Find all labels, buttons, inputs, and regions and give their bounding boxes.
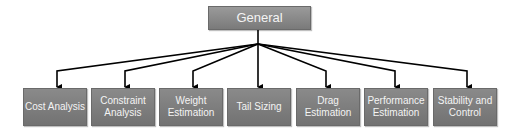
root-node-general: General [208,6,311,30]
node-weight-estimation: Weight Estimation [159,88,223,126]
node-tail-sizing: Tail Sizing [227,88,291,126]
node-stability-and-control: Stability and Control [433,88,497,126]
node-constraint-analysis: Constraint Analysis [91,88,155,126]
node-drag-estimation: Drag Estimation [296,88,360,126]
node-cost-analysis: Cost Analysis [23,88,87,126]
node-performance-estimation: Performance Estimation [364,88,428,126]
